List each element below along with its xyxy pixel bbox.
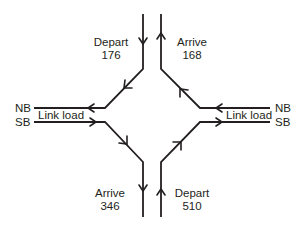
north-depart-value: 176 xyxy=(101,49,120,61)
east-nb-label: NB xyxy=(275,102,291,114)
south-depart-value: 510 xyxy=(182,200,201,212)
interchange-diagram: Depart 176 Arrive 168 NB SB Link load NB… xyxy=(0,0,303,229)
north-depart-to-west-nb-path xyxy=(34,14,143,108)
north-arrive-label: Arrive xyxy=(177,36,207,48)
south-depart-to-east-sb-path xyxy=(161,122,270,217)
east-sb-label: SB xyxy=(275,116,291,128)
east-nb-to-north-arrive-path xyxy=(161,14,270,108)
west-nb-label: NB xyxy=(15,102,31,114)
east-link-load-label: Link load xyxy=(226,109,272,121)
west-link-load-label: Link load xyxy=(38,109,84,121)
south-arrive-label: Arrive xyxy=(95,187,125,199)
south-depart-label: Depart xyxy=(175,187,210,199)
west-sb-label: SB xyxy=(15,116,31,128)
north-depart-label: Depart xyxy=(94,36,129,48)
north-arrive-value: 168 xyxy=(182,49,201,61)
south-arrive-value: 346 xyxy=(100,200,119,212)
